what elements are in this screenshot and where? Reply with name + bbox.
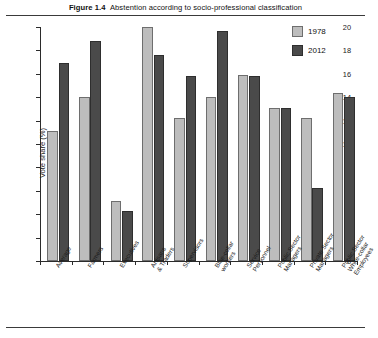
title-rule-top	[6, 15, 365, 16]
bar-2012[interactable]	[186, 76, 197, 261]
bar-2012[interactable]	[281, 108, 292, 261]
bar-1978[interactable]	[79, 97, 90, 261]
figure-title: Figure 1.4 Abstention according to socio…	[0, 0, 371, 14]
bar-1978[interactable]	[206, 97, 217, 261]
bar-2012[interactable]	[59, 63, 70, 261]
bar-1978[interactable]	[47, 131, 58, 261]
y-tick-mark	[36, 191, 40, 192]
figure-title-text: Abstention according to socio-profession…	[110, 3, 302, 12]
bar-group	[174, 27, 196, 261]
bar-2012[interactable]	[217, 31, 228, 261]
bar-1978[interactable]	[111, 201, 122, 261]
y-tick-mark	[36, 27, 40, 28]
plot-area: Vote share (%) 02468101214161820	[40, 27, 358, 261]
y-tick-mark	[36, 97, 40, 98]
bar-2012[interactable]	[249, 76, 260, 261]
y-tick-mark	[36, 121, 40, 122]
y-tick-mark	[36, 167, 40, 168]
y-tick-mark	[36, 238, 40, 239]
x-axis-label-group: AverageFarmersExecutivesArtisans & Trade…	[40, 265, 360, 335]
bar-group	[47, 27, 69, 261]
bar-2012[interactable]	[344, 97, 355, 261]
bar-group	[206, 27, 228, 261]
bar-group	[111, 27, 133, 261]
y-tick-mark	[36, 74, 40, 75]
bar-1978[interactable]	[238, 75, 249, 261]
bar-1978[interactable]	[269, 108, 280, 261]
bar-group	[142, 27, 164, 261]
y-tick-mark	[36, 214, 40, 215]
y-tick-mark	[36, 144, 40, 145]
figure-number: Figure 1.4	[69, 3, 106, 12]
bar-group	[269, 27, 291, 261]
bar-1978[interactable]	[142, 27, 153, 261]
y-tick-mark	[36, 50, 40, 51]
bar-group	[79, 27, 101, 261]
bar-2012[interactable]	[90, 41, 101, 261]
bar-group	[333, 27, 355, 261]
bar-1978[interactable]	[174, 118, 185, 261]
bar-group	[301, 27, 323, 261]
bar-group	[238, 27, 260, 261]
bar-group-container	[41, 27, 358, 261]
bar-2012[interactable]	[154, 55, 165, 261]
